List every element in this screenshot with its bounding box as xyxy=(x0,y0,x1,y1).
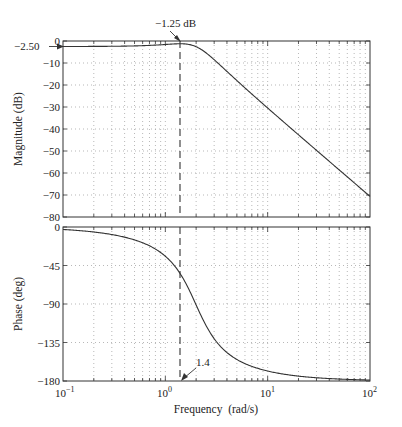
ytick-label: −135 xyxy=(37,337,60,349)
ytick-label: −90 xyxy=(43,298,61,310)
phase-ytick-labels: 0−45−90−135−180 xyxy=(37,221,60,387)
ytick-label: 0 xyxy=(55,35,61,47)
freq-annotation: 1.4 xyxy=(196,356,210,368)
peak-annotation: −1.25 dB xyxy=(155,17,196,29)
xtick-1: 100 xyxy=(157,385,172,399)
x-axis-label: Frequency (rad/s) xyxy=(174,403,258,416)
dc-annotation: −2.50 xyxy=(14,40,40,52)
ytick-label: −40 xyxy=(43,123,61,135)
ytick-label: −45 xyxy=(43,260,61,272)
ytick-label: −50 xyxy=(43,145,61,157)
magnitude-grid xyxy=(63,41,370,217)
magnitude-ylabel: Magnitude (dB) xyxy=(12,92,25,166)
magnitude-ytick-labels: 0−10−20−30−40−50−60−70−80 xyxy=(43,35,61,223)
freq-arrowhead-icon xyxy=(181,373,188,381)
phase-curve xyxy=(63,229,370,380)
ytick-label: −70 xyxy=(43,189,61,201)
magnitude-curve xyxy=(63,44,370,197)
xtick-0.1: 10−1 xyxy=(55,385,75,399)
ytick-label: 0 xyxy=(55,221,61,233)
ytick-label: −10 xyxy=(43,57,61,69)
phase-ylabel: Phase (deg) xyxy=(12,277,25,331)
magnitude-panel: Magnitude (dB) xyxy=(12,41,370,217)
bode-plot: Magnitude (dB) Phase (deg) −1.25 dB −2.5… xyxy=(0,0,402,427)
x-tick-labels: 10−1 100 101 102 xyxy=(55,385,377,399)
ytick-label: −180 xyxy=(37,375,60,387)
xtick-100: 102 xyxy=(362,385,377,399)
ytick-label: −30 xyxy=(43,101,61,113)
xtick-10: 101 xyxy=(260,385,275,399)
phase-panel: Phase (deg) xyxy=(12,227,370,381)
ytick-label: −60 xyxy=(43,167,61,179)
phase-grid xyxy=(63,227,370,381)
ytick-label: −20 xyxy=(43,79,61,91)
